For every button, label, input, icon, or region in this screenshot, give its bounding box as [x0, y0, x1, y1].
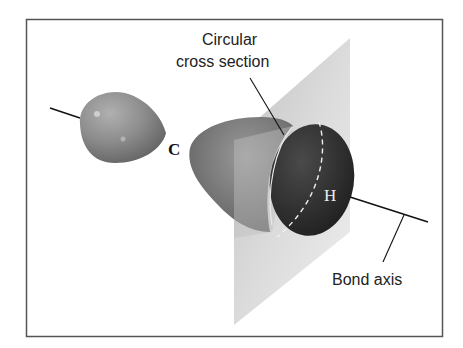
small-lobe — [80, 92, 166, 163]
carbon-atom-label: C — [168, 141, 180, 159]
orbital-diagram: Circular cross section Bond axis C H — [0, 0, 463, 348]
bond-axis-label: Bond axis — [332, 270, 402, 290]
cross-section-label-line2: cross section — [176, 52, 269, 72]
bond-axis-right-line — [350, 197, 428, 222]
bond-axis-left-line — [50, 108, 80, 118]
small-lobe-highlight — [121, 137, 126, 142]
hydrogen-atom-label: H — [324, 187, 336, 205]
cross-section-label-line1: Circular — [202, 30, 257, 50]
bond-axis-leader-line — [383, 215, 404, 262]
small-lobe-highlight — [94, 111, 100, 117]
